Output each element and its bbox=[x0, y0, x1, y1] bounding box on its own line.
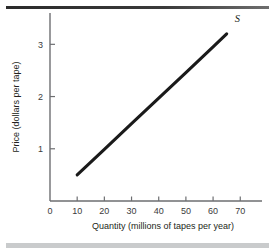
y-axis-title: Price (dollars per tape) bbox=[11, 61, 21, 152]
supply-curve-line bbox=[77, 34, 226, 175]
x-axis-tick-label: 60 bbox=[208, 206, 218, 216]
x-axis-tick-label: 10 bbox=[72, 206, 82, 216]
supply-curve-label: S bbox=[235, 13, 241, 24]
bottom-divider-rule bbox=[6, 243, 269, 248]
x-axis-tick-label: 30 bbox=[127, 206, 137, 216]
x-axis-tick-label: 50 bbox=[181, 206, 191, 216]
x-axis-tick-label: 70 bbox=[235, 206, 245, 216]
y-axis-ticks bbox=[50, 44, 55, 148]
supply-curve-chart: 010203040506070 123 S Quantity (millions… bbox=[0, 0, 275, 252]
x-axis-title: Quantity (millions of tapes per year) bbox=[92, 221, 234, 231]
y-axis-tick-label: 1 bbox=[38, 144, 43, 154]
y-axis-tick-labels: 123 bbox=[38, 40, 43, 154]
supply-curve-figure: 010203040506070 123 S Quantity (millions… bbox=[0, 0, 275, 252]
x-axis-tick-labels: 010203040506070 bbox=[47, 206, 245, 216]
x-axis-tick-label: 40 bbox=[154, 206, 164, 216]
y-axis-tick-label: 3 bbox=[38, 40, 43, 50]
y-axis-tick-label: 2 bbox=[38, 92, 43, 102]
x-axis-tick-label: 0 bbox=[47, 206, 52, 216]
x-axis-tick-label: 20 bbox=[99, 206, 109, 216]
